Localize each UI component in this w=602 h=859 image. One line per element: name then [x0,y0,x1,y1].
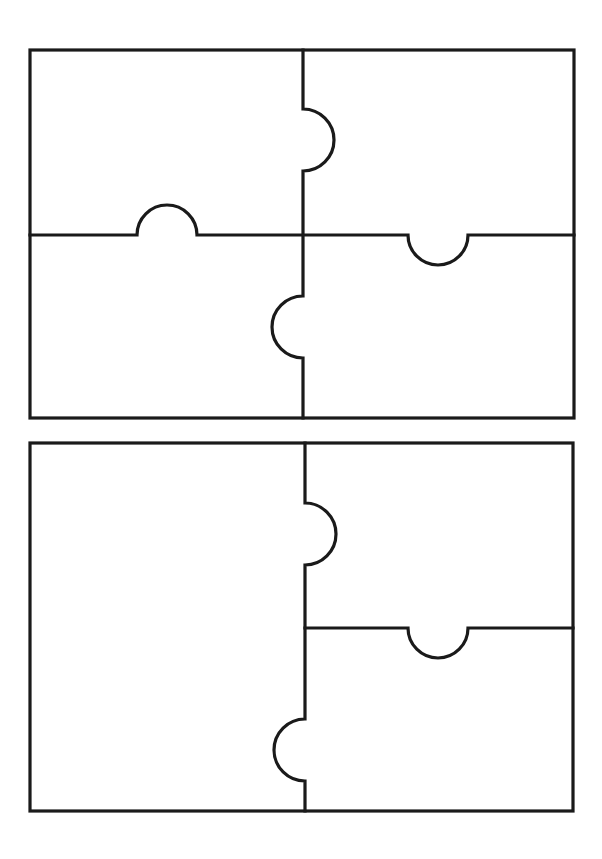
three-piece-template [30,443,573,811]
puzzle-diagram [0,0,602,859]
horizontal-divider-bottom [305,628,573,658]
four-piece-template [30,50,574,418]
